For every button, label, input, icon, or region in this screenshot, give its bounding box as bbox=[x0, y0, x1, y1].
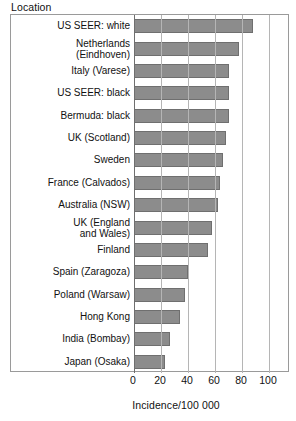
gridline bbox=[188, 15, 189, 373]
x-tick-label: 60 bbox=[208, 374, 220, 386]
bar-category-label: US SEER: white bbox=[16, 20, 134, 32]
bar-row: Hong Kong bbox=[11, 306, 290, 328]
bar bbox=[134, 198, 218, 212]
x-axis: 020406080100 bbox=[10, 372, 289, 392]
x-axis-title: Incidence/100 000 bbox=[76, 399, 220, 411]
bar-row: Netherlands (Eindhoven) bbox=[11, 37, 290, 59]
bar-row: Finland bbox=[11, 239, 290, 261]
bar-category-label: India (Bombay) bbox=[16, 334, 134, 346]
bar-category-label: Italy (Varese) bbox=[16, 65, 134, 77]
bar bbox=[134, 42, 239, 56]
incidence-bar-chart: Location US SEER: whiteNetherlands (Eind… bbox=[0, 0, 296, 421]
bar-row: UK (Scotland) bbox=[11, 127, 290, 149]
bar-rows-container: US SEER: whiteNetherlands (Eindhoven)Ita… bbox=[11, 15, 290, 373]
axis-zero-line bbox=[134, 15, 135, 373]
gridline bbox=[215, 15, 216, 373]
x-tick-label: 80 bbox=[235, 374, 247, 386]
bar-category-label: Japan (Osaka) bbox=[16, 356, 134, 368]
bar bbox=[134, 176, 220, 190]
bar-category-label: Finland bbox=[16, 244, 134, 256]
bar-category-label: UK (Scotland) bbox=[16, 132, 134, 144]
bar bbox=[134, 243, 208, 257]
bar-row: Japan (Osaka) bbox=[11, 351, 290, 373]
bar bbox=[134, 221, 212, 235]
bar-category-label: France (Calvados) bbox=[16, 177, 134, 189]
x-axis-title-wrap: Incidence/100 000 bbox=[0, 399, 296, 411]
bar-category-label: Bermuda: black bbox=[16, 110, 134, 122]
x-tick-label: 100 bbox=[259, 374, 277, 386]
bar-row: Poland (Warsaw) bbox=[11, 284, 290, 306]
bar-row: Sweden bbox=[11, 149, 290, 171]
bar-row: Italy (Varese) bbox=[11, 60, 290, 82]
bar-category-label: Hong Kong bbox=[16, 311, 134, 323]
bar-row: UK (England and Wales) bbox=[11, 216, 290, 238]
gridline bbox=[269, 15, 270, 373]
bar bbox=[134, 131, 226, 145]
x-tick-label: 40 bbox=[181, 374, 193, 386]
x-tick-label: 20 bbox=[154, 374, 166, 386]
bar-category-label: Netherlands (Eindhoven) bbox=[16, 37, 134, 60]
plot-frame: US SEER: whiteNetherlands (Eindhoven)Ita… bbox=[10, 14, 289, 372]
gridline bbox=[242, 15, 243, 373]
bar-row: Bermuda: black bbox=[11, 105, 290, 127]
bar-category-label: Australia (NSW) bbox=[16, 199, 134, 211]
x-tick-label: 0 bbox=[130, 374, 136, 386]
bar-row: India (Bombay) bbox=[11, 328, 290, 350]
bar-category-label: UK (England and Wales) bbox=[16, 216, 134, 239]
bar bbox=[134, 310, 180, 324]
bar bbox=[134, 332, 170, 346]
bar-row: US SEER: black bbox=[11, 82, 290, 104]
bar bbox=[134, 19, 253, 33]
bar-category-label: Poland (Warsaw) bbox=[16, 289, 134, 301]
bar-category-label: Sweden bbox=[16, 155, 134, 167]
bar-row: France (Calvados) bbox=[11, 172, 290, 194]
bar bbox=[134, 288, 185, 302]
bar-category-label: US SEER: black bbox=[16, 88, 134, 100]
bar-row: Australia (NSW) bbox=[11, 194, 290, 216]
gridline bbox=[161, 15, 162, 373]
bar-row: Spain (Zaragoza) bbox=[11, 261, 290, 283]
bar-category-label: Spain (Zaragoza) bbox=[16, 267, 134, 279]
bar-row: US SEER: white bbox=[11, 15, 290, 37]
bar bbox=[134, 153, 223, 167]
location-axis-heading: Location bbox=[11, 1, 52, 13]
